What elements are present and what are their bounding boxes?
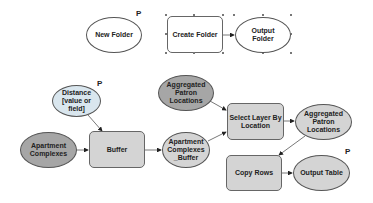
node-aggregated-patron-locations-input[interactable]: Aggregated Patron Locations — [158, 75, 214, 111]
node-create-folder[interactable]: Create Folder — [167, 16, 223, 53]
node-distance[interactable]: Distance [value or field] — [52, 85, 101, 117]
node-select-layer-by-location[interactable]: Select Layer By Location — [227, 103, 284, 140]
parameter-marker: P — [97, 79, 102, 88]
selection-handle[interactable] — [193, 52, 195, 54]
node-apartment-complexes[interactable]: Apartment Complexes — [20, 132, 77, 168]
node-buffer[interactable]: Buffer — [89, 131, 145, 168]
selection-handle[interactable] — [290, 52, 292, 54]
node-output-table[interactable]: Output Table — [293, 155, 350, 191]
node-apartment-complexes-buffer[interactable]: Apartment Complexes _Buffer — [162, 132, 210, 168]
node-copy-rows[interactable]: Copy Rows — [226, 155, 282, 191]
selection-handle[interactable] — [165, 14, 167, 16]
selection-handle[interactable] — [193, 14, 195, 16]
node-new-folder[interactable]: New Folder — [86, 17, 142, 53]
selection-handle[interactable] — [290, 14, 292, 16]
selection-handle[interactable] — [165, 52, 167, 54]
parameter-marker: P — [345, 147, 350, 156]
selection-handle[interactable] — [262, 14, 264, 16]
selection-handle[interactable] — [233, 14, 235, 16]
edge-aggregated-to-copyrows — [279, 136, 305, 155]
selection-handle[interactable] — [222, 52, 224, 54]
selection-handle[interactable] — [165, 33, 167, 35]
parameter-marker: P — [136, 9, 141, 18]
selection-handle[interactable] — [222, 14, 224, 16]
edge-aggregated-to-select — [210, 101, 226, 110]
edge-apbuffer-to-select — [208, 132, 226, 141]
edge-distance-to-buffer — [88, 115, 102, 131]
node-output-folder[interactable]: Output Folder — [235, 17, 291, 53]
node-aggregated-patron-locations-output[interactable]: Aggregated Patron Locations — [295, 104, 352, 140]
